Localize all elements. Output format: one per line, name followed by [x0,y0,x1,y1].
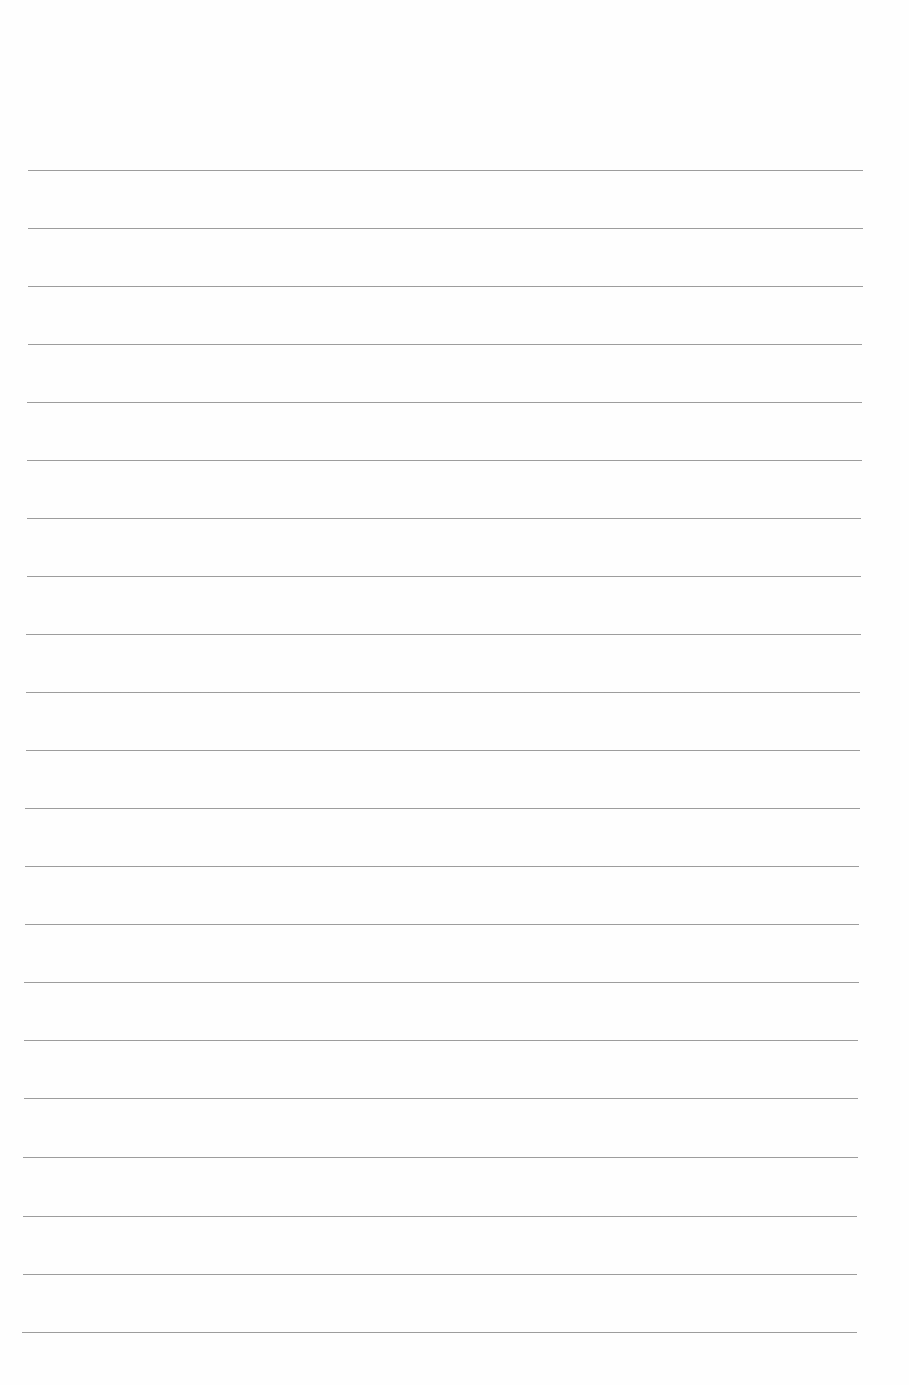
ruled-line [28,344,862,345]
ruled-line [25,866,859,867]
ruled-line [22,1332,857,1333]
ruled-line [25,808,860,809]
ruled-line [27,576,861,577]
ruled-line [26,750,860,751]
ruled-line [23,1157,858,1158]
ruled-line [24,1040,858,1041]
ruled-line [28,286,863,287]
ruled-line [26,692,860,693]
ruled-line [27,518,861,519]
ruled-line [28,170,863,171]
ruled-line [23,1274,857,1275]
ruled-line [24,982,859,983]
ruled-line [27,460,862,461]
ruled-line [23,1216,857,1217]
ruled-line [25,924,859,925]
ruled-line [24,1098,858,1099]
ruled-line [27,402,862,403]
ruled-line [28,228,863,229]
ruled-line [26,634,861,635]
lined-paper-page [0,0,909,1385]
